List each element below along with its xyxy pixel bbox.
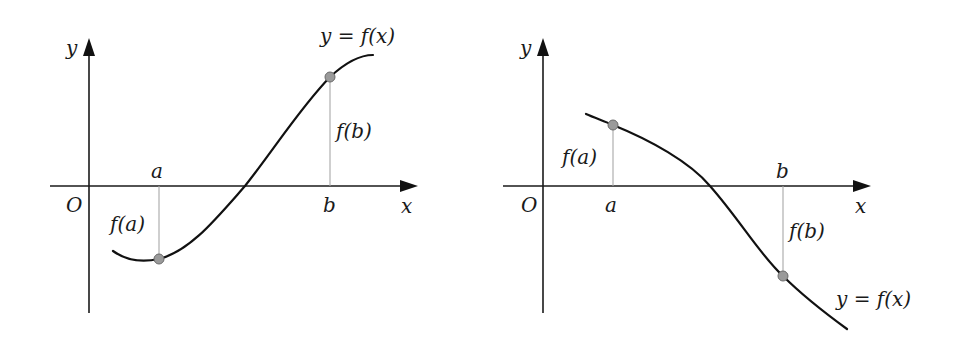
left-y-label: y: [65, 36, 78, 60]
right-fa-label: f(a): [560, 145, 597, 169]
left-curve: [113, 55, 373, 261]
right-y-label: y: [519, 36, 532, 60]
right-point-b: [778, 271, 788, 281]
right-origin-label: O: [521, 193, 537, 217]
right-x-axis-arrow-icon: [853, 180, 871, 192]
left-point-a: [154, 254, 164, 264]
right-curve-label: y = f(x): [835, 287, 911, 311]
left-diagram: y y = f(x) O a b x f(a) f(b): [50, 24, 418, 313]
left-point-b: [325, 72, 335, 82]
left-b-label: b: [323, 193, 336, 217]
right-point-a: [608, 120, 618, 130]
right-y-axis-arrow-icon: [537, 38, 549, 56]
left-fa-label: f(a): [108, 212, 145, 236]
right-diagram: y O a f(a) b x f(b) y = f(x): [503, 36, 911, 329]
left-a-label: a: [151, 159, 163, 183]
left-fb-label: f(b): [334, 119, 372, 143]
intermediate-value-theorem-figure: y y = f(x) O a b x f(a) f(b) y O a f(a) …: [0, 0, 969, 343]
left-origin-label: O: [66, 193, 82, 217]
right-a-label: a: [605, 193, 617, 217]
right-x-label: x: [855, 194, 866, 218]
right-fb-label: f(b): [787, 219, 825, 243]
left-curve-label: y = f(x): [319, 24, 395, 48]
left-y-axis-arrow-icon: [83, 38, 95, 56]
left-x-label: x: [401, 194, 412, 218]
left-x-axis-arrow-icon: [400, 180, 418, 192]
right-b-label: b: [776, 159, 789, 183]
